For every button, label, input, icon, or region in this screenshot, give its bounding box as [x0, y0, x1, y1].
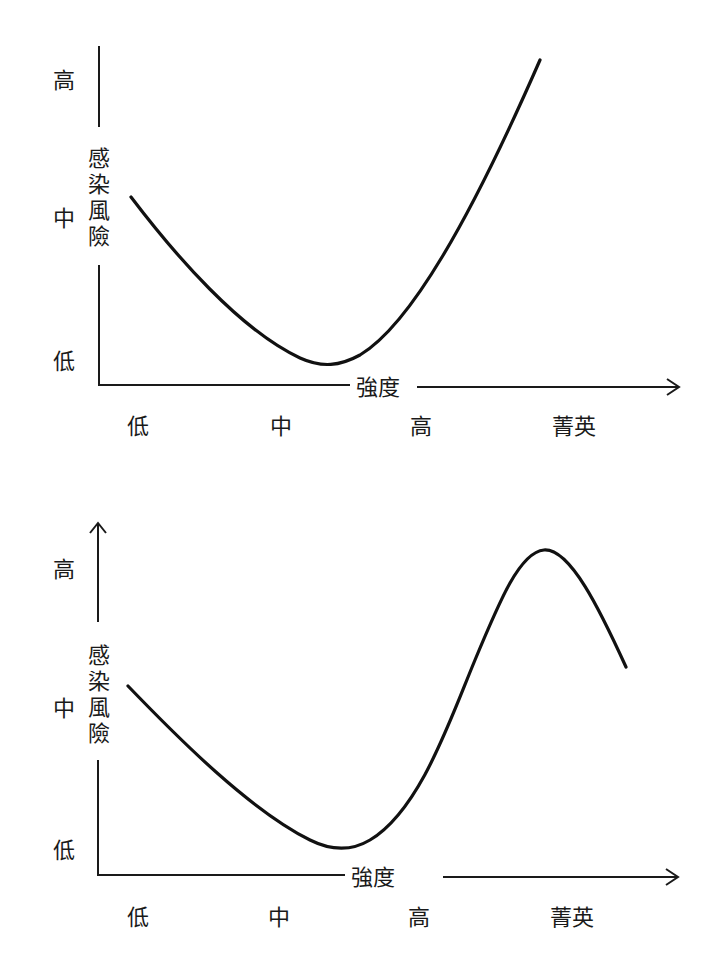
x-tick-low: 低 — [127, 905, 149, 930]
chart-j-curve: 高 中 低 感 染 風 險 強度 低 中 高 菁英 — [53, 46, 679, 439]
y-label-char-1: 感 — [88, 146, 110, 171]
y-tick-low: 低 — [53, 349, 75, 374]
y-tick-mid: 中 — [53, 206, 75, 231]
y-label-char-3: 風 — [88, 695, 110, 720]
y-label-char-4: 險 — [88, 721, 110, 746]
x-axis-label: 強度 — [351, 865, 395, 890]
y-tick-high: 高 — [53, 68, 75, 93]
x-tick-high: 高 — [410, 414, 432, 439]
chart-s-curve: 高 中 低 感 染 風 險 強度 低 中 高 菁英 — [53, 523, 678, 930]
x-tick-mid: 中 — [270, 414, 292, 439]
x-tick-mid: 中 — [268, 905, 290, 930]
y-label-char-2: 染 — [88, 172, 110, 197]
risk-curve — [131, 60, 540, 364]
y-label-char-2: 染 — [88, 669, 110, 694]
x-tick-low: 低 — [127, 414, 149, 439]
x-tick-elite: 菁英 — [552, 414, 596, 439]
figure: 高 中 低 感 染 風 險 強度 低 中 高 菁英 高 中 低 感 染 風 — [0, 0, 715, 974]
y-tick-mid: 中 — [53, 696, 75, 721]
x-axis-label: 強度 — [356, 375, 400, 400]
y-label-char-1: 感 — [88, 643, 110, 668]
y-label-char-3: 風 — [88, 198, 110, 223]
y-label-char-4: 險 — [88, 224, 110, 249]
y-tick-low: 低 — [53, 838, 75, 863]
x-tick-elite: 菁英 — [550, 905, 594, 930]
risk-curve — [128, 550, 626, 848]
y-tick-high: 高 — [53, 557, 75, 582]
x-tick-high: 高 — [408, 905, 430, 930]
